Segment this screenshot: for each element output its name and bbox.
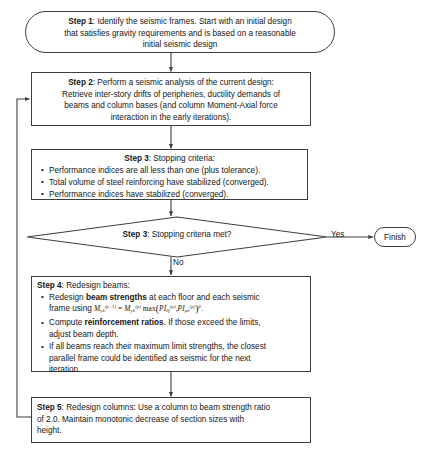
step-2-line-1-rest: : Perform a seismic analysis of the curr… [93,78,274,87]
step-2-line-3: beams and column bases (and column Momen… [37,100,305,112]
step-4-b2-emphasis: reinforcement ratios [85,318,164,327]
step-4-action-list: Redesign beam strengths at each floor an… [37,292,305,376]
node-step-3[interactable]: Step 3: Stopping criteria: Performance i… [31,149,308,200]
node-step-5[interactable]: Step 5: Redesign columns: Use a column t… [31,397,311,443]
node-step-2[interactable]: Step 2: Perform a seismic analysis of th… [31,72,311,126]
step-3-label: Step 3 [124,154,149,163]
node-step-4[interactable]: Step 4: Redesign beams: Redesign beam st… [31,276,311,372]
step-4-b2-line2: adjust beam depth. [49,330,119,339]
list-item: Compute reinforcement ratios. If those e… [49,317,305,340]
step-4-b1-emphasis: beam strengths [86,293,147,302]
list-item: Total volume of steel reinforcing have s… [49,177,302,189]
list-item: Performance indices have stabilized (con… [49,189,302,201]
step-4-b3-line1: If all beams reach their maximum limit s… [49,342,266,351]
step-4-b2-pre: Compute [49,318,85,327]
step-3-title-rest: : Stopping criteria: [149,154,215,163]
list-item: Performance indices are all less than on… [49,165,302,177]
step-2-line-1: Step 2: Perform a seismic analysis of th… [37,77,305,89]
step-4-title: Step 4: Redesign beams: [37,280,305,292]
step-1-line-3: initial seismic design [31,39,329,51]
edge-label-no: No [173,258,183,267]
step-1-line-1: Step 1: Identify the seismic frames. Sta… [31,16,329,28]
step-4-b1-line2-pre: frame using [49,304,94,313]
step-4-title-rest: : Redesign beams: [62,281,130,290]
decision-question: : Stopping criteria met? [147,230,231,239]
decision-label[interactable]: Step 3: Stopping criteria met? [27,230,327,239]
step-4-b3-line3: iteration. [49,365,80,374]
node-step-1[interactable]: Step 1: Identify the seismic frames. Sta… [25,11,335,53]
step-4-b2-post: . If those exceed the limits, [164,318,261,327]
step-4-b1-post: at each floor and each seismic [147,293,260,302]
step-4-formula: Myb(p+1) = Myb(p) max(PIθj(p),PIμb(p))β. [94,304,203,313]
step-5-line-1: Step 5: Redesign columns: Use a column t… [37,402,305,414]
step-3-title: Step 3: Stopping criteria: [37,153,302,165]
node-finish[interactable]: Finish [374,227,416,247]
step-3-criteria-list: Performance indices are all less than on… [37,165,302,201]
step-5-label: Step 5 [37,403,62,412]
step-5-line-1-rest: : Redesign columns: Use a column to beam… [62,403,270,412]
edge-label-yes: Yes [331,230,344,239]
step-5-line-3: height. [37,425,305,437]
step-5-line-2: of 2.0. Maintain monotonic decrease of s… [37,414,305,426]
list-item: Redesign beam strengths at each floor an… [49,292,305,317]
list-item: If all beams reach their maximum limit s… [49,341,305,376]
step-1-line-2: that satisfies gravity requirements and … [31,28,329,40]
edge-feedback-loop [17,99,31,417]
step-1-label: Step 1 [68,17,93,26]
step-2-line-2: Retrieve inter-story drifts of peripheri… [37,89,305,101]
step-2-line-4: interaction in the early iterations). [37,112,305,124]
step-2-label: Step 2 [68,78,93,87]
decision-step-label: Step 3 [123,230,148,239]
flowchart-canvas: Step 1: Identify the seismic frames. Sta… [0,0,421,459]
step-4-b1-pre: Redesign [49,293,86,302]
step-4-b3-line2: parallel frame could be identified as se… [49,354,251,363]
step-1-line-1-rest: : Identify the seismic frames. Start wit… [93,17,292,26]
step-4-label: Step 4 [37,281,62,290]
